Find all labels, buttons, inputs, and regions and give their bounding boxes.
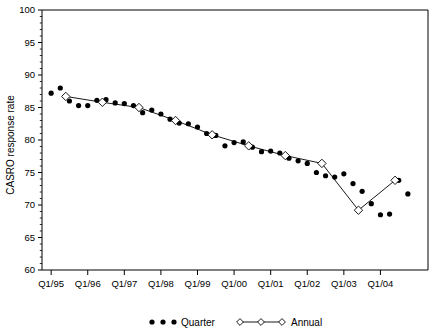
quarter-point <box>332 174 337 179</box>
quarter-point <box>158 111 163 116</box>
quarter-point <box>231 140 236 145</box>
axes <box>42 10 428 270</box>
quarter-point <box>122 101 127 106</box>
y-tick-label-80: 80 <box>24 134 35 145</box>
x-tick-label-Q1/98: Q1/98 <box>148 278 174 289</box>
legend-quarter-label: Quarter <box>181 317 216 328</box>
casro-response-rate-chart: CASRO response rate 6065707580859095100 … <box>0 0 436 336</box>
quarter-point <box>405 191 410 196</box>
x-tick-label-Q1/97: Q1/97 <box>111 278 137 289</box>
quarter-point <box>314 170 319 175</box>
y-axis-label-text: CASRO response rate <box>5 95 16 195</box>
y-tick-label-70: 70 <box>24 199 35 210</box>
quarter-point <box>305 161 310 166</box>
quarter-point <box>378 212 383 217</box>
axis-frame <box>42 10 428 270</box>
annual-line-path <box>66 96 395 210</box>
quarter-point <box>341 171 346 176</box>
quarter-point <box>222 143 227 148</box>
x-tick-label-Q1/03: Q1/03 <box>331 278 357 289</box>
annual-point <box>318 159 326 167</box>
x-tick-label-Q1/99: Q1/99 <box>185 278 211 289</box>
quarter-point <box>195 124 200 129</box>
quarter-point <box>58 85 63 90</box>
quarter-point <box>350 181 355 186</box>
legend-quarter-dot-1 <box>149 319 154 324</box>
y-tick-label-75: 75 <box>24 167 35 178</box>
quarter-point <box>387 212 392 217</box>
chart-canvas: CASRO response rate 6065707580859095100 … <box>0 0 436 336</box>
legend-annual-label: Annual <box>291 317 322 328</box>
x-tick-label-Q1/01: Q1/01 <box>258 278 284 289</box>
legend: Quarter Annual <box>149 317 322 328</box>
quarter-point <box>149 108 154 113</box>
x-tick-label-Q1/02: Q1/02 <box>294 278 320 289</box>
legend-annual-diamond-2 <box>258 319 265 326</box>
x-axis-ticks: Q1/95Q1/96Q1/97Q1/98Q1/99Q1/00Q1/01Q1/02… <box>38 270 393 289</box>
annual-series-points <box>62 92 400 214</box>
y-tick-label-95: 95 <box>24 37 35 48</box>
quarter-point <box>85 103 90 108</box>
quarter-point <box>323 173 328 178</box>
x-tick-label-Q1/95: Q1/95 <box>38 278 64 289</box>
x-tick-label-Q1/96: Q1/96 <box>75 278 101 289</box>
quarter-point <box>241 139 246 144</box>
y-tick-label-60: 60 <box>24 264 35 275</box>
quarter-point <box>49 91 54 96</box>
y-tick-label-100: 100 <box>19 4 35 15</box>
quarter-point <box>259 149 264 154</box>
y-tick-label-85: 85 <box>24 102 35 113</box>
quarter-point <box>113 100 118 105</box>
legend-item-quarter: Quarter <box>149 317 215 328</box>
legend-annual-diamond-1 <box>237 319 244 326</box>
legend-item-annual: Annual <box>237 317 323 328</box>
quarter-point <box>186 121 191 126</box>
quarter-point <box>76 103 81 108</box>
quarter-point <box>268 148 273 153</box>
y-tick-label-65: 65 <box>24 232 35 243</box>
x-tick-label-Q1/00: Q1/00 <box>221 278 247 289</box>
quarter-point <box>140 110 145 115</box>
quarter-point <box>360 189 365 194</box>
annual-series-line <box>66 96 395 210</box>
y-axis-ticks: 6065707580859095100 <box>19 4 42 275</box>
legend-quarter-dot-3 <box>171 319 176 324</box>
legend-annual-diamond-3 <box>279 319 286 326</box>
quarter-point <box>296 158 301 163</box>
quarter-point <box>369 201 374 206</box>
x-tick-label-Q1/04: Q1/04 <box>367 278 393 289</box>
legend-quarter-dot-2 <box>160 319 165 324</box>
y-axis-label: CASRO response rate <box>5 95 16 195</box>
y-tick-label-90: 90 <box>24 69 35 80</box>
